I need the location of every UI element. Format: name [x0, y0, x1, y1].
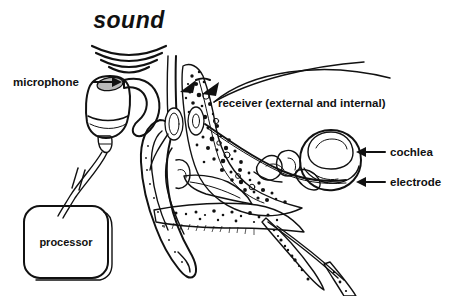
label-processor: processor — [39, 236, 93, 248]
label-electrode: electrode — [390, 176, 441, 188]
label-microphone: microphone — [13, 76, 79, 88]
receiver-internal — [188, 107, 204, 135]
label-sound: sound — [93, 7, 165, 33]
label-receiver: receiver (external and internal) — [218, 97, 386, 109]
label-cochlea: cochlea — [390, 146, 433, 158]
cochlear-implant-diagram: sound microphone receiver (external and … — [0, 0, 459, 296]
